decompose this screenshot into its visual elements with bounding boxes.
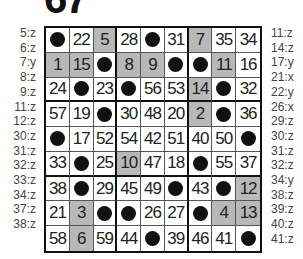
grid-cell[interactable]: 19 [70, 102, 94, 127]
grid-cell[interactable]: 38 [46, 177, 70, 202]
grid-cell[interactable]: 58 [46, 226, 70, 251]
grid-cell-dot[interactable] [236, 127, 260, 152]
grid-cell-shaded[interactable]: 15 [70, 53, 94, 78]
grid-cell-shaded[interactable]: 13 [236, 201, 260, 226]
grid-cell[interactable]: 33 [46, 152, 70, 177]
filled-circle-icon [241, 231, 256, 246]
grid-cell-dot[interactable] [189, 201, 213, 226]
grid-cell[interactable]: 32 [236, 78, 260, 103]
grid-cell-dot[interactable] [165, 53, 189, 78]
grid-cell[interactable]: 43 [189, 177, 213, 202]
grid-cell-dot[interactable] [94, 102, 118, 127]
grid-cell-shaded[interactable]: 4 [212, 201, 236, 226]
grid-cell-dot[interactable] [141, 226, 165, 251]
grid-cell[interactable]: 37 [236, 152, 260, 177]
filled-circle-icon [168, 57, 183, 72]
grid-cell-shaded[interactable]: 5 [94, 28, 118, 53]
grid-cell[interactable]: 56 [141, 78, 165, 103]
grid-cell[interactable]: 30 [117, 102, 141, 127]
grid-cell[interactable]: 29 [94, 177, 118, 202]
grid-cell[interactable]: 47 [141, 152, 165, 177]
grid-cell-shaded[interactable]: 7 [189, 28, 213, 53]
grid-cell[interactable]: 42 [141, 127, 165, 152]
grid-cell[interactable]: 44 [117, 226, 141, 251]
grid-cell-shaded[interactable]: 8 [117, 53, 141, 78]
grid-cell-dot[interactable] [46, 28, 70, 53]
grid-cell[interactable]: 50 [212, 127, 236, 152]
grid-cell[interactable]: 27 [165, 201, 189, 226]
grid-cell[interactable]: 48 [141, 102, 165, 127]
grid-cell-shaded[interactable]: 10 [117, 152, 141, 177]
grid-cell-shaded[interactable]: 3 [70, 201, 94, 226]
grid-cell[interactable]: 46 [189, 226, 213, 251]
grid-cell-shaded[interactable]: 2 [189, 102, 213, 127]
grid-cell[interactable]: 16 [236, 53, 260, 78]
grid-cell-shaded[interactable]: 12 [236, 177, 260, 202]
grid-cell-shaded[interactable]: 9 [141, 53, 165, 78]
grid-cell-shaded[interactable]: 6 [70, 226, 94, 251]
grid-cell[interactable]: 35 [212, 28, 236, 53]
grid-cell[interactable]: 23 [94, 78, 118, 103]
grid-cell-dot[interactable] [94, 53, 118, 78]
clue-label: 22:y [271, 85, 303, 100]
grid-cell-dot[interactable] [117, 201, 141, 226]
grid-cell-dot[interactable] [46, 127, 70, 152]
grid-cell-dot[interactable] [70, 78, 94, 103]
filled-circle-icon [121, 81, 136, 96]
grid-cell[interactable]: 59 [94, 226, 118, 251]
grid-cell-dot[interactable] [212, 78, 236, 103]
clue-label: 34:z [0, 188, 36, 203]
grid-cell[interactable]: 49 [141, 177, 165, 202]
filled-circle-icon [193, 57, 208, 72]
left-clue-list: 5:z6:z7:y8:z9:z11:z12:z30:z31:z32:z33:z3… [0, 26, 36, 232]
filled-circle-icon [216, 181, 231, 196]
grid-cell[interactable]: 22 [70, 28, 94, 53]
grid-cell-dot[interactable] [70, 152, 94, 177]
grid-cell-shaded[interactable]: 14 [189, 78, 213, 103]
grid-cell-shaded[interactable]: 11 [212, 53, 236, 78]
grid-cell-dot[interactable] [70, 177, 94, 202]
filled-circle-icon [241, 131, 256, 146]
grid-cell[interactable]: 24 [46, 78, 70, 103]
grid-cell[interactable]: 28 [117, 28, 141, 53]
grid-cell[interactable]: 17 [70, 127, 94, 152]
grid-cell-dot[interactable] [236, 226, 260, 251]
filled-circle-icon [74, 181, 89, 196]
filled-circle-icon [97, 206, 112, 221]
grid-cell[interactable]: 26 [141, 201, 165, 226]
filled-circle-icon [50, 131, 65, 146]
grid-cell[interactable]: 45 [117, 177, 141, 202]
filled-circle-icon [145, 32, 160, 47]
clue-label: 38:z [271, 188, 303, 203]
grid-cell[interactable]: 25 [94, 152, 118, 177]
grid-cell-dot[interactable] [94, 201, 118, 226]
grid-cell[interactable]: 20 [165, 102, 189, 127]
grid-cell[interactable]: 57 [46, 102, 70, 127]
grid-cell-dot[interactable] [165, 177, 189, 202]
grid-cell[interactable]: 55 [212, 152, 236, 177]
clue-label: 32:z [0, 158, 36, 173]
grid-cell[interactable]: 51 [165, 127, 189, 152]
grid-cell[interactable]: 31 [165, 28, 189, 53]
grid-cell-dot[interactable] [141, 28, 165, 53]
grid-cell[interactable]: 21 [46, 201, 70, 226]
grid-cell[interactable]: 36 [236, 102, 260, 127]
clue-label: 7:y [0, 55, 36, 70]
grid-cell-dot[interactable] [212, 102, 236, 127]
grid-cell[interactable]: 18 [165, 152, 189, 177]
grid-cell[interactable]: 41 [212, 226, 236, 251]
grid-cell-dot[interactable] [189, 152, 213, 177]
grid-cell-shaded[interactable]: 1 [46, 53, 70, 78]
grid-cell[interactable]: 39 [165, 226, 189, 251]
grid-cell[interactable]: 53 [165, 78, 189, 103]
grid-cell-dot[interactable] [212, 177, 236, 202]
grid-cell[interactable]: 54 [117, 127, 141, 152]
clue-label: 5:z [0, 26, 36, 41]
grid-cell[interactable]: 40 [189, 127, 213, 152]
filled-circle-icon [216, 81, 231, 96]
grid-cell-dot[interactable] [189, 53, 213, 78]
grid-cell[interactable]: 34 [236, 28, 260, 53]
grid-cell-dot[interactable] [117, 78, 141, 103]
clue-label: 37:z [0, 202, 36, 217]
grid-cell[interactable]: 52 [94, 127, 118, 152]
